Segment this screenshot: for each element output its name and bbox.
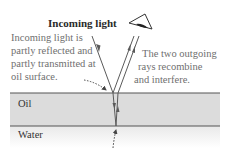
left-note-line-4: oil surface. xyxy=(11,71,58,83)
water-label: Water xyxy=(18,129,43,141)
incoming-light-title: Incoming light xyxy=(48,17,117,29)
outgoing-ray-1-arrow-icon xyxy=(128,44,131,51)
left-note-line-1: Incoming light is xyxy=(11,32,83,44)
left-note-line-2: partly reflected and xyxy=(11,45,93,57)
surface-pointer-dotted-arrow xyxy=(84,80,106,90)
right-note-line-3: and interfere. xyxy=(134,74,190,86)
outgoing-ray-1 xyxy=(113,36,134,93)
outgoing-ray-2-arrow-icon xyxy=(132,46,135,53)
oil-label: Oil xyxy=(18,98,31,110)
right-note-line-2: rays recombine xyxy=(138,61,202,73)
eye-icon xyxy=(129,14,152,29)
right-note-line-1: The two outgoing xyxy=(142,48,217,60)
left-note-line-3: partly transmitted at xyxy=(11,58,96,70)
